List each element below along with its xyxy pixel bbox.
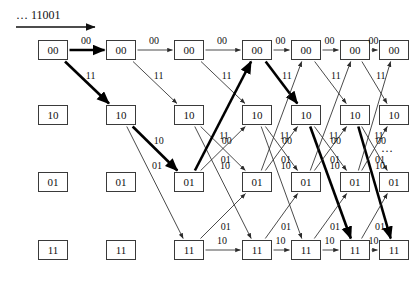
edge-output-label: 01	[152, 161, 162, 171]
state-node-11-col0[interactable]: 11	[38, 240, 68, 260]
edge-output-label: 11	[374, 131, 384, 141]
edge-output-label: 11	[86, 71, 96, 81]
edge-output-label: 11	[219, 131, 229, 141]
edge-output-label: 10	[217, 236, 227, 246]
edge-output-label: 11	[154, 71, 164, 81]
state-node-00-col2[interactable]: 00	[174, 40, 204, 60]
edge-output-label: 01	[330, 222, 340, 232]
trellis-edge-survivor	[65, 62, 109, 104]
state-node-00-col3[interactable]: 00	[242, 40, 272, 60]
edge-output-label: 11	[329, 131, 339, 141]
state-node-00-col6[interactable]: 00	[379, 40, 409, 60]
state-node-01-col6[interactable]: 01	[379, 172, 409, 192]
state-node-00-col1[interactable]: 00	[106, 40, 136, 60]
state-node-10-col2[interactable]: 10	[174, 105, 204, 125]
edge-output-label: 00	[81, 36, 91, 46]
state-node-01-col5[interactable]: 01	[340, 172, 370, 192]
edge-output-label: 00	[325, 36, 335, 46]
trellis-edge-branch	[133, 62, 177, 104]
edge-output-label: 10	[154, 136, 164, 146]
edge-output-label: 11	[280, 131, 290, 141]
edge-output-label: 11	[331, 71, 341, 81]
state-node-11-col3[interactable]: 11	[242, 240, 272, 260]
state-node-11-col4[interactable]: 11	[291, 240, 321, 260]
state-node-01-col1[interactable]: 01	[106, 172, 136, 192]
edge-output-label: 00	[217, 36, 227, 46]
edge-output-label: 01	[221, 155, 231, 165]
edge-output-label: 11	[282, 71, 292, 81]
state-node-10-col4[interactable]: 10	[291, 105, 321, 125]
trellis-diagram: … 11001 00000000000000101010101010100101…	[0, 0, 415, 282]
edge-output-label: 11	[222, 71, 232, 81]
edge-output-label: 10	[325, 236, 335, 246]
continuation-ellipsis: …	[381, 141, 394, 156]
state-node-01-col4[interactable]: 01	[291, 172, 321, 192]
state-node-11-col5[interactable]: 11	[340, 240, 370, 260]
edge-output-label: 00	[369, 36, 379, 46]
edge-output-label: 00	[149, 36, 159, 46]
trellis-edge-branch	[315, 62, 347, 104]
state-node-10-col3[interactable]: 10	[242, 105, 272, 125]
edge-output-label: 11	[376, 71, 386, 81]
state-node-01-col0[interactable]: 01	[38, 172, 68, 192]
edge-output-label: 10	[369, 236, 379, 246]
state-node-00-col5[interactable]: 00	[340, 40, 370, 60]
edge-output-label: 01	[330, 155, 340, 165]
state-node-00-col4[interactable]: 00	[291, 40, 321, 60]
edge-output-label: 01	[375, 155, 385, 165]
trellis-edge-survivor	[266, 62, 298, 104]
state-node-10-col5[interactable]: 10	[340, 105, 370, 125]
state-node-00-col0[interactable]: 00	[38, 40, 68, 60]
edge-output-label: 01	[221, 222, 231, 232]
trellis-edge-branch	[362, 62, 387, 104]
edge-output-label: 01	[281, 155, 291, 165]
state-node-10-col6[interactable]: 10	[379, 105, 409, 125]
trellis-edge-branch	[201, 62, 245, 104]
state-node-10-col0[interactable]: 10	[38, 105, 68, 125]
state-node-01-col3[interactable]: 01	[242, 172, 272, 192]
state-node-01-col2[interactable]: 01	[174, 172, 204, 192]
edge-output-label: 00	[276, 36, 286, 46]
state-node-11-col6[interactable]: 11	[379, 240, 409, 260]
edge-output-label: 01	[281, 222, 291, 232]
edge-output-label: 01	[375, 222, 385, 232]
state-node-11-col1[interactable]: 11	[106, 240, 136, 260]
edge-output-label: 10	[276, 236, 286, 246]
state-node-11-col2[interactable]: 11	[174, 240, 204, 260]
state-node-10-col1[interactable]: 10	[106, 105, 136, 125]
